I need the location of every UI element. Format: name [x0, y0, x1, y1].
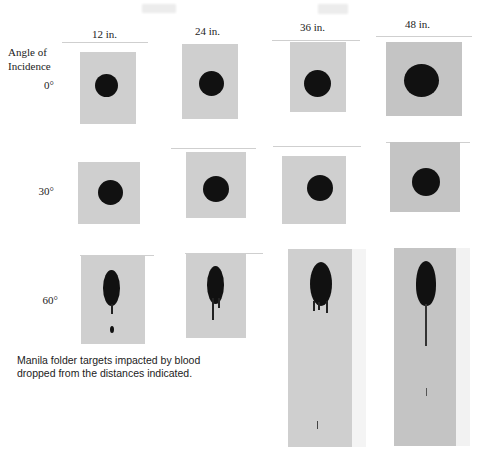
column-header-12in: 12 in.	[92, 28, 117, 40]
blood-tail	[326, 301, 328, 313]
blood-stain-elongated	[103, 270, 120, 306]
blood-tail	[425, 304, 427, 346]
target-edge-strip	[352, 249, 366, 447]
blood-stain-elongated	[310, 262, 332, 306]
target-0deg-24in	[182, 44, 238, 119]
row-header-line1: Angle of	[8, 45, 51, 59]
blood-stain	[98, 180, 123, 205]
target-0deg-48in	[386, 42, 462, 116]
row-label-30deg: 30°	[34, 185, 54, 197]
blood-stain	[203, 176, 229, 202]
column-header-36in: 36 in.	[300, 21, 325, 33]
row-label-60deg: 60°	[38, 294, 58, 306]
blood-stain	[304, 70, 331, 97]
caption-line2: dropped from the distances indicated.	[17, 367, 200, 380]
blood-drip-mark	[317, 421, 318, 429]
column-header-24in: 24 in.	[195, 25, 220, 37]
blood-tail	[313, 301, 315, 311]
target-30deg-48in	[390, 142, 460, 212]
scan-smudge	[142, 4, 176, 13]
target-0deg-36in	[290, 42, 346, 112]
target-30deg-36in	[282, 156, 346, 224]
blood-stain	[199, 71, 224, 96]
target-60deg-36in	[288, 249, 352, 447]
blood-tail	[318, 302, 320, 310]
blood-stain	[95, 74, 118, 97]
target-0deg-12in	[80, 52, 136, 124]
blood-stain	[412, 168, 440, 196]
blood-stain-elongated	[207, 266, 224, 304]
target-edge-strip	[456, 248, 470, 446]
target-30deg-24in	[186, 152, 246, 218]
column-header-48in: 48 in.	[405, 18, 430, 30]
target-60deg-24in	[186, 254, 246, 338]
figure-caption: Manila folder targets impacted by blood …	[17, 354, 200, 380]
target-60deg-12in	[81, 256, 145, 344]
row-label-0deg: 0°	[34, 79, 54, 91]
blood-satellite-drop	[110, 326, 114, 333]
scan-smudge	[318, 4, 348, 14]
target-60deg-48in	[394, 248, 456, 446]
target-30deg-12in	[78, 162, 140, 224]
blood-tail	[218, 298, 220, 308]
row-header-line2: Incidence	[8, 59, 51, 73]
blood-tail	[111, 304, 113, 314]
blood-drip-mark	[426, 388, 427, 396]
row-header-angle-of-incidence: Angle of Incidence	[8, 45, 51, 73]
blood-stain	[307, 175, 333, 201]
blood-stain	[404, 64, 439, 97]
blood-tail	[212, 298, 214, 320]
caption-line1: Manila folder targets impacted by blood	[17, 354, 200, 367]
blood-stain-elongated	[416, 261, 436, 306]
